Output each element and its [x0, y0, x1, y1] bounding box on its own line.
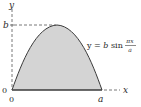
b-label: b: [3, 20, 9, 30]
x-axis-label: x: [123, 85, 128, 95]
equation-denominator: a: [128, 46, 132, 53]
sine-area-diagram: y x b 0 0 a y = b sin πx a: [0, 0, 141, 107]
equation-lhs: y =: [86, 41, 103, 50]
svg-text:y = b sin: y = b sin: [86, 41, 123, 50]
y-axis-label: y: [8, 0, 15, 10]
origin-bottom-label: 0: [9, 95, 14, 104]
equation-func: sin: [108, 41, 122, 50]
a-label: a: [98, 94, 103, 104]
origin-left-label: 0: [2, 86, 7, 95]
equation-numerator: πx: [125, 37, 134, 44]
shaded-area: [12, 25, 102, 90]
equation: y = b sin πx a: [86, 37, 136, 53]
